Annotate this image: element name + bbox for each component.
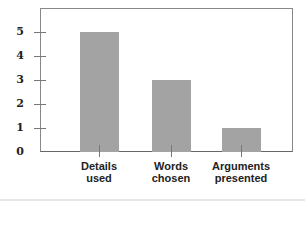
x-tick-label: Detailsused	[59, 160, 139, 184]
bar	[152, 80, 191, 152]
x-label-line: chosen	[131, 172, 211, 184]
x-tick	[241, 145, 242, 157]
x-tick-label: Argumentspresented	[201, 160, 281, 184]
x-tick	[99, 145, 100, 157]
x-label-line: used	[59, 172, 139, 184]
y-tick-label: 2	[14, 98, 26, 110]
x-tick-label: Wordschosen	[131, 160, 211, 184]
y-tick-label: 5	[14, 26, 26, 38]
x-label-line: presented	[201, 172, 281, 184]
y-tick	[34, 104, 46, 105]
y-tick	[34, 56, 46, 57]
bottom-divider	[0, 199, 305, 201]
y-tick-label: 3	[14, 74, 26, 86]
y-tick-label: 0	[14, 146, 26, 158]
x-label-line: Arguments	[201, 160, 281, 172]
y-tick	[34, 80, 46, 81]
y-tick-label: 1	[14, 122, 26, 134]
y-tick	[34, 128, 46, 129]
y-tick	[34, 32, 46, 33]
bar	[80, 32, 119, 152]
x-tick	[171, 145, 172, 157]
y-tick-label: 4	[14, 50, 26, 62]
x-label-line: Details	[59, 160, 139, 172]
x-label-line: Words	[131, 160, 211, 172]
